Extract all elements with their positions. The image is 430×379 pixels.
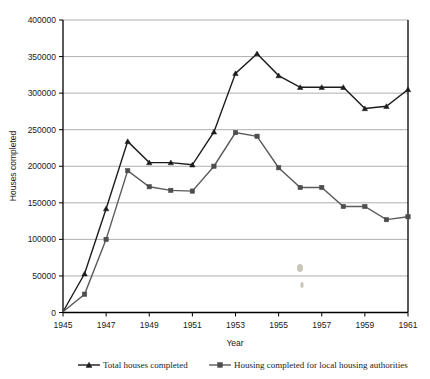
y-tick-label: 400000 bbox=[28, 15, 57, 25]
data-point-marker bbox=[169, 188, 173, 192]
x-tick-label: 1959 bbox=[355, 320, 374, 330]
line-chart: 0500001000001500002000002500003000003500… bbox=[0, 0, 430, 379]
x-tick-label: 1947 bbox=[97, 320, 116, 330]
data-point-marker bbox=[147, 185, 151, 189]
data-point-marker bbox=[125, 139, 130, 144]
chart-figure: 0500001000001500002000002500003000003500… bbox=[0, 0, 430, 379]
x-tick-label: 1945 bbox=[54, 320, 73, 330]
x-tick-label: 1957 bbox=[312, 320, 331, 330]
data-point-marker bbox=[406, 215, 410, 219]
data-point-marker bbox=[384, 217, 388, 221]
series-line-local bbox=[63, 133, 408, 312]
x-axis-ticks: 194519471949195119531955195719591961 bbox=[54, 313, 418, 330]
series-lines bbox=[63, 54, 408, 312]
page-smudge-artifact-2 bbox=[300, 282, 303, 288]
legend-label: Total houses completed bbox=[103, 360, 188, 370]
y-axis-ticks: 0500001000001500002000002500003000003500… bbox=[28, 15, 63, 318]
legend-label: Housing completed for local housing auth… bbox=[234, 360, 408, 370]
y-tick-label: 200000 bbox=[28, 161, 57, 171]
y-tick-label: 350000 bbox=[28, 52, 57, 62]
data-point-marker bbox=[104, 237, 108, 241]
y-tick-label: 300000 bbox=[28, 88, 57, 98]
x-tick-label: 1955 bbox=[269, 320, 288, 330]
y-tick-label: 250000 bbox=[28, 125, 57, 135]
chart-legend: Total houses completedHousing completed … bbox=[78, 360, 408, 370]
data-point-marker bbox=[255, 134, 259, 138]
data-point-marker bbox=[212, 164, 216, 168]
data-point-marker bbox=[320, 185, 324, 189]
x-tick-label: 1951 bbox=[183, 320, 202, 330]
page-smudge-artifact bbox=[297, 264, 303, 272]
data-point-marker bbox=[341, 204, 345, 208]
data-point-marker bbox=[125, 168, 129, 172]
y-tick-label: 100000 bbox=[28, 234, 57, 244]
x-axis-title: Year bbox=[226, 338, 243, 348]
data-point-marker bbox=[190, 189, 194, 193]
y-axis-title: Houses completed bbox=[8, 131, 18, 202]
legend-swatch-marker bbox=[218, 363, 223, 368]
data-point-marker bbox=[298, 185, 302, 189]
y-tick-label: 50000 bbox=[32, 271, 56, 281]
x-tick-label: 1949 bbox=[140, 320, 159, 330]
data-point-marker bbox=[82, 292, 86, 296]
data-point-marker bbox=[82, 271, 87, 276]
y-tick-label: 0 bbox=[51, 308, 56, 318]
x-tick-label: 1953 bbox=[226, 320, 245, 330]
data-point-marker bbox=[233, 130, 237, 134]
data-point-marker bbox=[103, 206, 108, 211]
y-tick-label: 150000 bbox=[28, 198, 57, 208]
x-tick-label: 1961 bbox=[399, 320, 418, 330]
data-point-marker bbox=[276, 166, 280, 170]
data-point-marker bbox=[363, 204, 367, 208]
gridlines bbox=[63, 20, 408, 276]
series-line-total bbox=[63, 54, 408, 312]
data-point-marker bbox=[405, 87, 410, 92]
data-point-marker bbox=[254, 51, 259, 56]
